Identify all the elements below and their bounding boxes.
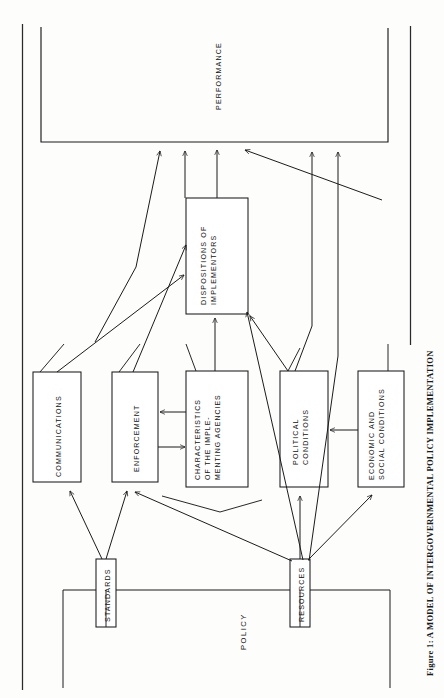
economic-label-line1: ECONOMIC AND	[368, 411, 376, 480]
characteristics-label-line3: MENTING AGENCIES	[214, 394, 221, 480]
node-enforcement[interactable]: ENFORCEMENT	[112, 372, 158, 482]
dispositions-label-line1: DISPOSITIONS OF	[200, 225, 208, 305]
figure-caption: Figure 1: A MODEL OF INTERGOVERNMENTAL P…	[425, 350, 435, 676]
figure-page: PERFORMANCE DISPOSITIONS OF IMPLEMENTORS…	[0, 0, 444, 698]
dispositions-label-line2: IMPLEMENTORS	[210, 235, 218, 305]
node-dispositions[interactable]: DISPOSITIONS OF IMPLEMENTORS	[186, 198, 248, 314]
policy-label: POLICY	[239, 613, 248, 650]
economic-label-line2: SOCIAL CONDITIONS	[378, 388, 386, 480]
node-economic[interactable]: ECONOMIC AND SOCIAL CONDITIONS	[358, 371, 404, 487]
characteristics-label-line1: CHARACTERISTICS	[194, 399, 201, 480]
political-label-line2: CONDITIONS	[302, 409, 310, 465]
node-communications[interactable]: COMMUNICATIONS	[33, 372, 81, 482]
characteristics-label-line2: OF THE IMPLE-	[204, 416, 211, 480]
resources-label: RESOURCES	[298, 567, 306, 622]
communications-label: COMMUNICATIONS	[55, 395, 63, 477]
performance-label: PERFORMANCE	[215, 42, 223, 110]
standards-label: STANDARDS	[104, 568, 112, 622]
node-characteristics[interactable]: CHARACTERISTICS OF THE IMPLE- MENTING AG…	[186, 371, 248, 487]
node-political[interactable]: POLITICAL CONDITIONS	[280, 371, 328, 487]
diagram-canvas: PERFORMANCE DISPOSITIONS OF IMPLEMENTORS…	[0, 0, 444, 698]
enforcement-label: ENFORCEMENT	[133, 405, 141, 472]
political-label-line1: POLITICAL	[292, 418, 300, 465]
